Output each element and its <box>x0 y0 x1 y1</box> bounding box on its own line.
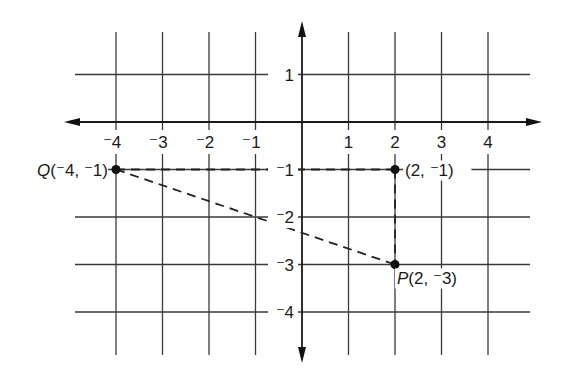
point-label-P: P(2, ⁻3) <box>397 269 457 288</box>
x-tick-label: 2 <box>390 133 399 152</box>
point-label-R: (2, ⁻1) <box>405 161 454 180</box>
x-tick-label: 3 <box>437 133 446 152</box>
y-tick-label: ⁻2 <box>276 208 294 227</box>
x-tick-label: ⁻3 <box>149 133 167 152</box>
y-axis-down-arrow-icon <box>298 347 306 363</box>
x-axis-right-arrow-icon <box>526 118 542 126</box>
y-tick-label: 1 <box>285 66 294 85</box>
x-tick-label: 4 <box>483 133 492 152</box>
x-axis-left-arrow-icon <box>64 118 80 126</box>
x-tick-label: 1 <box>344 133 353 152</box>
coordinate-grid-diagram: ⁻4⁻3⁻2⁻112341⁻1⁻2⁻3⁻4 Q(⁻4, ⁻1)(2, ⁻1)P(… <box>0 0 562 383</box>
x-tick-label: ⁻2 <box>196 133 214 152</box>
y-tick-label: ⁻1 <box>276 161 294 180</box>
point-Q <box>112 165 121 174</box>
y-tick-label: ⁻3 <box>276 256 294 275</box>
point-label-Q: Q(⁻4, ⁻1) <box>37 161 108 180</box>
x-tick-label: ⁻4 <box>103 133 121 152</box>
y-axis-up-arrow-icon <box>298 21 306 37</box>
point-R <box>391 165 400 174</box>
y-tick-label: ⁻4 <box>276 303 294 322</box>
x-tick-label: ⁻1 <box>242 133 260 152</box>
plotted-points: Q(⁻4, ⁻1)(2, ⁻1)P(2, ⁻3) <box>21 161 472 289</box>
